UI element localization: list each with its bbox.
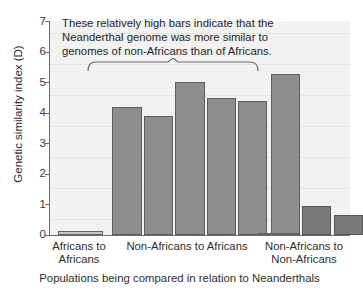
y-tick-label-0: 0 [24,229,46,241]
x-axis-group-label-2-line-1: Non-Africans to Africans [112,240,262,253]
x-axis-group-label-1-line-2: Africans [38,253,120,266]
y-tick-label-3: 3 [24,138,46,150]
x-axis-group-label-3-line-2: Non-Africans [252,253,356,266]
y-tick-label-1: 1 [24,199,46,211]
y-tick-label-7: 7 [24,16,46,28]
bar-9 [302,206,331,235]
annotation-line-2: Neanderthal genome was more similar to [62,30,330,44]
x-axis-title: Populations being compared in relation t… [0,272,359,284]
x-axis-group-label-1: Africans to Africans [38,240,120,266]
y-axis-title: Genetic similarity index (D) [12,4,24,224]
y-tick-label-4: 4 [24,107,46,119]
annotation-text: These relatively high bars indicate that… [62,16,330,59]
bar-8 [258,233,299,235]
annotation-line-1: These relatively high bars indicate that… [62,16,330,30]
x-axis-group-label-1-line-1: Africans to [38,240,120,253]
y-tick-label-2: 2 [24,168,46,180]
bar-10 [334,215,363,235]
y-tick-label-5: 5 [24,77,46,89]
x-axis-group-label-2: Non-Africans to Africans [112,240,262,253]
x-axis-group-label-3-line-1: Non-Africans to [252,240,356,253]
annotation-line-3: genomes of non-Africans than of Africans… [62,44,330,58]
y-tick-label-6: 6 [24,46,46,58]
x-axis-group-label-3: Non-Africans to Non-Africans [252,240,356,266]
annotation-bracket-icon [86,58,260,72]
